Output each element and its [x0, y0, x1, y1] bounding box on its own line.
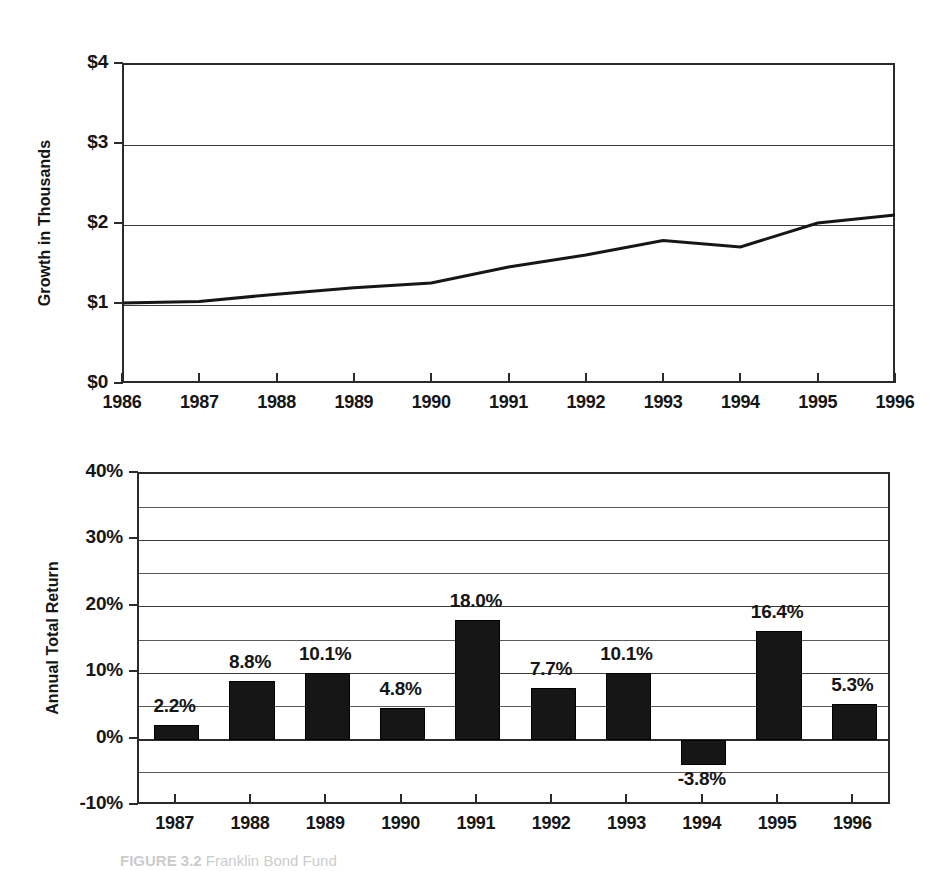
growth-x-tick-mark	[508, 373, 510, 383]
bar-value-label-1993: 10.1%	[571, 643, 681, 665]
growth-y-tick-mark	[114, 62, 123, 64]
growth-y-tick-mark	[114, 302, 123, 304]
bar-1990	[380, 708, 425, 740]
growth-y-tick-mark	[114, 222, 123, 224]
growth-x-tick-label: 1990	[391, 392, 471, 413]
return-x-tick-mark	[851, 794, 853, 804]
return-y-tick-label: 0%	[45, 726, 123, 748]
growth-x-tick-label: 1995	[778, 392, 858, 413]
growth-x-tick-mark	[121, 373, 123, 383]
return-x-tick-mark	[249, 794, 251, 804]
growth-x-tick-label: 1987	[159, 392, 239, 413]
growth-x-tick-mark	[585, 373, 587, 383]
bar-1988	[229, 681, 274, 739]
growth-y-tick-label: $3	[48, 131, 108, 153]
annual-total-return-bar-chart: Annual Total Return 40%30%20%10%0%-10%2.…	[0, 420, 937, 840]
growth-x-tick-label: 1986	[82, 392, 162, 413]
return-x-tick-mark	[324, 794, 326, 804]
bar-value-label-1987: 2.2%	[120, 695, 230, 717]
return-gridline	[139, 540, 888, 541]
growth-y-tick-label: $0	[48, 371, 108, 393]
bar-1987	[154, 725, 199, 740]
growth-x-tick-label: 1989	[314, 392, 394, 413]
bar-1989	[305, 673, 350, 740]
bar-1995	[756, 631, 801, 740]
growth-y-tick-mark	[114, 142, 123, 144]
growth-y-tick-label: $4	[48, 51, 108, 73]
growth-x-tick-label: 1988	[237, 392, 317, 413]
return-y-tick-label: 30%	[45, 526, 123, 548]
growth-x-tick-mark	[894, 373, 896, 383]
bar-value-label-1995: 16.4%	[722, 601, 832, 623]
return-y-tick-mark	[129, 670, 138, 672]
growth-y-tick-label: $1	[48, 291, 108, 313]
return-y-tick-mark	[129, 471, 138, 473]
growth-x-tick-mark	[662, 373, 664, 383]
return-plot-area	[137, 472, 890, 804]
growth-gridline	[124, 225, 893, 226]
growth-y-tick-label: $2	[48, 211, 108, 233]
return-minor-gridline	[139, 573, 888, 574]
return-y-tick-mark	[129, 737, 138, 739]
figure-caption-label: FIGURE 3.2	[120, 852, 202, 869]
return-x-tick-mark	[400, 794, 402, 804]
bar-value-label-1990: 4.8%	[346, 678, 456, 700]
growth-x-tick-label: 1991	[469, 392, 549, 413]
figure-container: Growth in Thousands $4$3$2$1$01986198719…	[0, 0, 937, 871]
bar-value-label-1996: 5.3%	[797, 674, 907, 696]
figure-caption-text: Franklin Bond Fund	[206, 852, 337, 869]
return-y-tick-label: 10%	[45, 659, 123, 681]
growth-x-tick-mark	[817, 373, 819, 383]
growth-x-tick-label: 1993	[623, 392, 703, 413]
return-x-tick-mark	[776, 794, 778, 804]
growth-gridline	[124, 145, 893, 146]
growth-plot-area	[122, 63, 895, 383]
growth-x-tick-mark	[739, 373, 741, 383]
growth-x-tick-mark	[430, 373, 432, 383]
bar-value-label-1991: 18.0%	[421, 590, 531, 612]
return-y-tick-label: 20%	[45, 593, 123, 615]
return-x-tick-label: 1996	[807, 813, 897, 834]
growth-x-tick-label: 1992	[546, 392, 626, 413]
growth-x-tick-mark	[198, 373, 200, 383]
return-x-tick-mark	[625, 794, 627, 804]
growth-gridline	[124, 305, 893, 306]
return-y-tick-label: -10%	[45, 792, 123, 814]
growth-x-tick-mark	[276, 373, 278, 383]
bar-value-label-1989: 10.1%	[270, 643, 380, 665]
growth-line-chart: Growth in Thousands $4$3$2$1$01986198719…	[0, 0, 937, 410]
return-y-tick-label: 40%	[45, 460, 123, 482]
return-y-tick-mark	[129, 537, 138, 539]
return-x-tick-mark	[550, 794, 552, 804]
return-y-tick-mark	[129, 803, 138, 805]
return-minor-gridline	[139, 772, 888, 773]
return-x-tick-mark	[701, 794, 703, 804]
bar-1996	[832, 704, 877, 739]
return-y-tick-mark	[129, 604, 138, 606]
growth-x-tick-mark	[353, 373, 355, 383]
return-x-tick-mark	[174, 794, 176, 804]
bar-1991	[455, 620, 500, 740]
bar-1994	[681, 740, 726, 765]
bar-1992	[531, 688, 576, 739]
return-y-axis-title: Annual Total Return	[44, 472, 62, 804]
growth-x-tick-label: 1996	[855, 392, 935, 413]
figure-caption: FIGURE 3.2 Franklin Bond Fund	[120, 852, 910, 869]
return-x-tick-mark	[475, 794, 477, 804]
growth-x-tick-label: 1994	[700, 392, 780, 413]
return-minor-gridline	[139, 507, 888, 508]
bar-1993	[606, 673, 651, 740]
bar-value-label-1994: -3.8%	[647, 768, 757, 790]
